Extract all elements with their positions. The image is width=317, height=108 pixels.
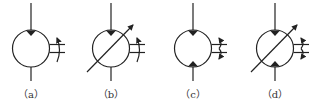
symbol-a	[13, 3, 66, 81]
label-d: （d）	[255, 89, 295, 101]
label-a: （a）	[11, 89, 51, 101]
flow-triangle-icon	[188, 31, 198, 37]
rotation-arrow-icon	[301, 38, 303, 49]
rotation-arrow-icon	[219, 49, 221, 60]
flow-triangle-icon	[188, 61, 198, 67]
flow-triangle-icon	[270, 61, 280, 67]
hydraulic-symbol-figure: （a） （b） （c） （d）	[0, 0, 317, 108]
symbol-d	[251, 3, 309, 81]
flow-triangle-icon	[270, 31, 280, 37]
rotation-arrow-icon	[219, 38, 221, 49]
rotation-arrow-icon	[137, 38, 140, 62]
flow-triangle-icon	[26, 31, 36, 37]
label-c: （c）	[173, 89, 213, 101]
rotation-arrow-icon	[301, 49, 303, 60]
rotation-arrow-icon	[57, 38, 60, 62]
label-b: （b）	[91, 89, 131, 101]
flow-triangle-icon	[106, 31, 116, 37]
symbol-b	[87, 3, 145, 81]
symbol-c	[175, 3, 228, 81]
